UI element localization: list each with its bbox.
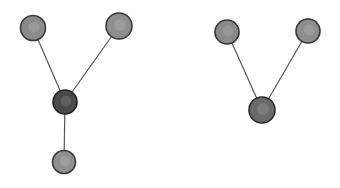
node-highlight xyxy=(61,96,72,107)
node-highlight xyxy=(114,19,126,31)
node-highlight xyxy=(28,21,39,32)
node-highlight xyxy=(60,156,70,166)
y-shaped-tree-edge xyxy=(65,26,119,102)
node-highlight xyxy=(223,26,234,37)
node-highlight xyxy=(257,103,269,115)
node-highlight xyxy=(304,25,315,36)
nodes-layer xyxy=(21,13,321,174)
graph-diagram-canvas xyxy=(0,0,340,188)
